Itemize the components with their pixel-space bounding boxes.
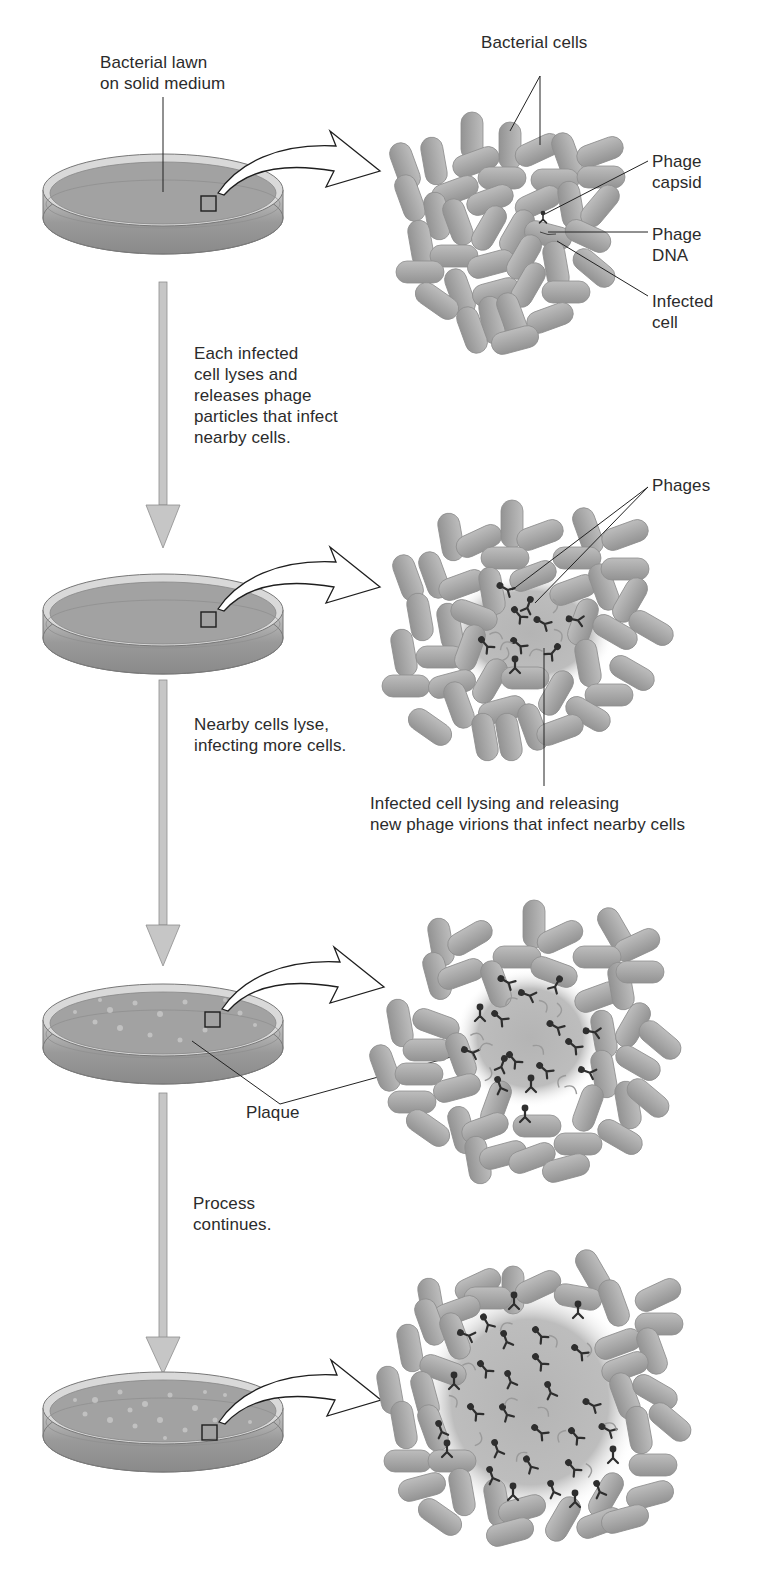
label-phage-capsid: Phage capsid xyxy=(652,151,702,193)
step4-dish xyxy=(43,1360,381,1472)
infected-cell xyxy=(428,1450,476,1472)
step1-zoom-cells xyxy=(386,112,626,357)
step4-zoom xyxy=(375,1246,695,1549)
label-bacterial-lawn: Bacterial lawn on solid medium xyxy=(100,52,225,94)
plaque-formation-diagram: Bacterial lawn on solid medium Bacterial… xyxy=(0,0,777,1579)
label-infected-cell: Infected cell xyxy=(652,291,713,333)
down-arrow-1 xyxy=(146,282,180,548)
step2-zoom xyxy=(382,500,677,763)
label-phages: Phages xyxy=(652,475,710,496)
down-arrow-3 xyxy=(146,1093,180,1374)
step1-dish xyxy=(43,97,380,254)
label-infected-lysing: Infected cell lysing and releasing new p… xyxy=(370,793,685,835)
label-process-continues: Process continues. xyxy=(193,1193,272,1235)
label-phage-dna: Phage DNA xyxy=(652,224,702,266)
label-nearby-cells: Nearby cells lyse, infecting more cells. xyxy=(194,714,346,756)
step3-zoom xyxy=(366,900,685,1186)
infected-cell xyxy=(513,1115,561,1137)
label-plaque: Plaque xyxy=(246,1102,300,1123)
label-bacterial-cells: Bacterial cells xyxy=(481,32,587,53)
step2-dish xyxy=(43,547,380,674)
down-arrow-2 xyxy=(146,680,180,966)
label-each-infected: Each infected cell lyses and releases ph… xyxy=(194,343,338,448)
